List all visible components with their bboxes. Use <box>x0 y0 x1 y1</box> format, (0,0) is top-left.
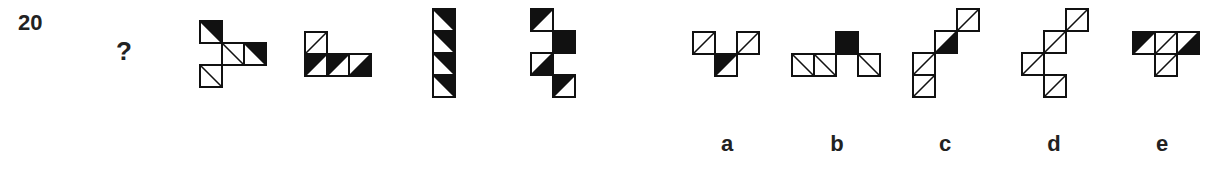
option-label-d[interactable]: d <box>1039 131 1069 157</box>
sequence-figure-4 <box>530 8 576 98</box>
sequence-figure-1 <box>199 20 267 88</box>
option-figure-a[interactable] <box>692 31 760 77</box>
question-number: 20 <box>18 10 42 36</box>
option-figure-e[interactable] <box>1132 31 1200 77</box>
option-figure-d[interactable] <box>1021 8 1089 98</box>
option-figure-b[interactable] <box>791 31 881 77</box>
option-label-b[interactable]: b <box>822 131 852 157</box>
option-figure-c[interactable] <box>912 8 980 98</box>
sequence-figure-2 <box>304 31 372 77</box>
sequence-figure-3 <box>432 8 456 98</box>
question-mark-icon: ? <box>116 36 132 67</box>
option-label-a[interactable]: a <box>712 131 742 157</box>
option-label-e[interactable]: e <box>1147 131 1177 157</box>
option-label-c[interactable]: c <box>930 131 960 157</box>
